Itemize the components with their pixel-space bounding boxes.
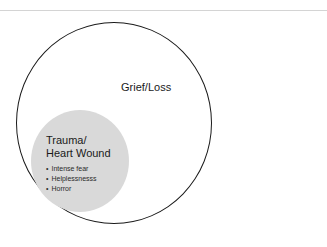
trauma-title-line2: Heart Wound: [46, 147, 111, 160]
trauma-title-line1: Trauma/: [46, 134, 111, 147]
trauma-circle: [31, 110, 129, 212]
trauma-bullet-list: Intense fear Helplessnesss Horror: [46, 164, 97, 194]
bullet-item: Intense fear: [46, 164, 97, 174]
bullet-item: Horror: [46, 184, 97, 194]
top-divider: [0, 10, 327, 11]
grief-loss-label: Grief/Loss: [121, 81, 171, 93]
trauma-title: Trauma/ Heart Wound: [46, 134, 111, 160]
bullet-item: Helplessnesss: [46, 174, 97, 184]
